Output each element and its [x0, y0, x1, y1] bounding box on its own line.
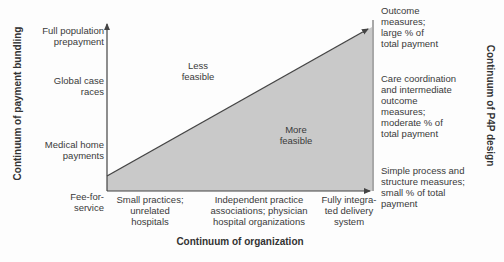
right-axis-title: Continuum of P4P design [485, 26, 496, 186]
x-axis-title: Continuum of organization [140, 236, 340, 247]
x-level-integrated-system: Fully integra- ted delivery system [316, 194, 382, 227]
p4p-level-outcome: Outcome measures; large % of total payme… [381, 5, 473, 49]
y-level-full-population: Full population prepayment [18, 25, 104, 47]
x-level-small-practices: Small practices; unrelated hospitals [108, 194, 192, 227]
y-level-fee-for-service: Fee-for- service [18, 191, 104, 213]
more-feasible-region [107, 27, 372, 191]
y-level-global-case: Global case races [18, 75, 104, 97]
less-feasible-label: Less feasible [168, 60, 228, 82]
p4p-level-simple-process: Simple process and structure measures; s… [381, 165, 481, 209]
x-level-ipa-pho: Independent practice associations; physi… [200, 194, 318, 227]
p4p-level-care-coordination: Care coordination and intermediate outco… [381, 73, 473, 139]
y-level-medical-home: Medical home payments [18, 139, 104, 161]
more-feasible-label: More feasible [266, 124, 326, 146]
